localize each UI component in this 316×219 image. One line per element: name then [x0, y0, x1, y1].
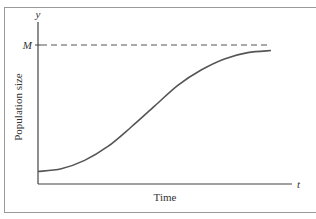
x-axis-symbol: t [297, 178, 301, 190]
x-axis-label: Time [154, 191, 177, 203]
carrying-capacity-label: M [22, 39, 33, 51]
y-axis-label: Population size [12, 73, 24, 141]
logistic-chart: y M t Time Population size [0, 0, 316, 219]
logistic-curve [38, 51, 271, 172]
y-axis-symbol: y [35, 8, 41, 20]
